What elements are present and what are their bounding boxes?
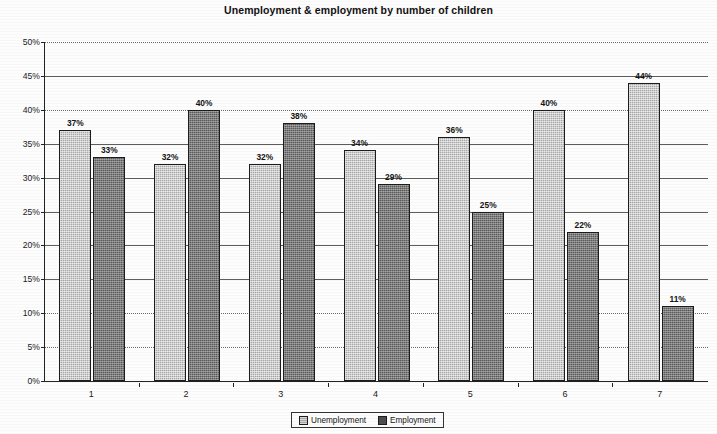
y-axis-tick (41, 245, 45, 246)
y-axis-tick (41, 76, 45, 77)
legend-label: Unemployment (311, 416, 366, 425)
y-axis-tick-label: 30% (6, 173, 40, 183)
bar-unemployment-5 (438, 137, 470, 381)
bar-value-label: 34% (338, 138, 382, 148)
legend-swatch-icon (299, 416, 308, 425)
gridline (45, 313, 708, 314)
legend-swatch-icon (378, 416, 387, 425)
bar-employment-1 (93, 157, 125, 381)
bar-value-label: 22% (561, 220, 605, 230)
y-axis-tick (41, 144, 45, 145)
x-axis-tick (328, 383, 329, 387)
bar-value-label: 40% (182, 98, 226, 108)
x-axis: 1234567 (44, 383, 707, 405)
y-axis-tick-label: 20% (6, 240, 40, 250)
bar-unemployment-3 (249, 164, 281, 381)
bar-unemployment-4 (344, 150, 376, 381)
bar-chart-figure: Unemployment & employment by number of c… (0, 0, 717, 434)
gridline (45, 110, 708, 111)
y-axis-tick (41, 279, 45, 280)
gridline (45, 347, 708, 348)
gridline (45, 212, 708, 213)
bar-value-label: 40% (527, 98, 571, 108)
gridline (45, 245, 708, 246)
x-axis-tick-label: 2 (166, 389, 206, 399)
x-axis-tick-label: 4 (356, 389, 396, 399)
y-axis-tick-label: 25% (6, 207, 40, 217)
x-axis-tick-label: 5 (450, 389, 490, 399)
bar-employment-6 (567, 232, 599, 381)
x-axis-tick (139, 383, 140, 387)
bar-value-label: 38% (277, 111, 321, 121)
legend-label: Employment (390, 416, 436, 425)
x-axis-tick-label: 7 (640, 389, 680, 399)
y-axis-tick (41, 110, 45, 111)
bar-value-label: 25% (466, 200, 510, 210)
bar-employment-4 (378, 184, 410, 381)
plot-area: 37%33%32%40%32%38%34%29%36%25%40%22%44%1… (44, 42, 708, 382)
bar-unemployment-2 (154, 164, 186, 381)
bar-value-label: 37% (53, 118, 97, 128)
x-axis-tick (233, 383, 234, 387)
bar-employment-5 (472, 212, 504, 382)
bar-employment-2 (188, 110, 220, 381)
y-axis-tick (41, 212, 45, 213)
y-axis-tick (41, 347, 45, 348)
bar-unemployment-6 (533, 110, 565, 381)
chart-legend: UnemploymentEmployment (291, 412, 444, 428)
gridline (45, 42, 708, 43)
bar-value-label: 11% (656, 294, 700, 304)
y-axis-labels: 0%5%10%15%20%25%30%35%40%45%50% (0, 42, 40, 381)
bar-value-label: 29% (372, 172, 416, 182)
bar-unemployment-1 (59, 130, 91, 381)
y-axis-tick-label: 0% (6, 376, 40, 386)
y-axis-tick (41, 381, 45, 382)
y-axis-tick-label: 45% (6, 71, 40, 81)
x-axis-tick-label: 6 (545, 389, 585, 399)
bar-value-label: 36% (432, 125, 476, 135)
y-axis-tick (41, 313, 45, 314)
x-axis-tick (423, 383, 424, 387)
y-axis-tick-label: 40% (6, 105, 40, 115)
x-axis-tick-label: 1 (71, 389, 111, 399)
y-axis-tick-label: 50% (6, 37, 40, 47)
bar-value-label: 32% (148, 152, 192, 162)
x-axis-tick (518, 383, 519, 387)
legend-entry-employment[interactable]: Employment (378, 416, 436, 425)
bar-value-label: 32% (243, 152, 287, 162)
y-axis-tick (41, 42, 45, 43)
x-axis-tick-label: 3 (261, 389, 301, 399)
bar-value-label: 44% (622, 71, 666, 81)
y-axis-tick-label: 15% (6, 274, 40, 284)
legend-entry-unemployment[interactable]: Unemployment (299, 416, 366, 425)
bar-unemployment-7 (628, 83, 660, 381)
gridline (45, 76, 708, 77)
bar-employment-3 (283, 123, 315, 381)
y-axis-tick-label: 5% (6, 342, 40, 352)
x-axis-tick (612, 383, 613, 387)
bar-value-label: 33% (87, 145, 131, 155)
y-axis-tick-label: 10% (6, 308, 40, 318)
y-axis-tick-label: 35% (6, 139, 40, 149)
y-axis-tick (41, 178, 45, 179)
chart-title: Unemployment & employment by number of c… (0, 4, 717, 16)
gridline (45, 279, 708, 280)
bar-employment-7 (662, 306, 694, 381)
